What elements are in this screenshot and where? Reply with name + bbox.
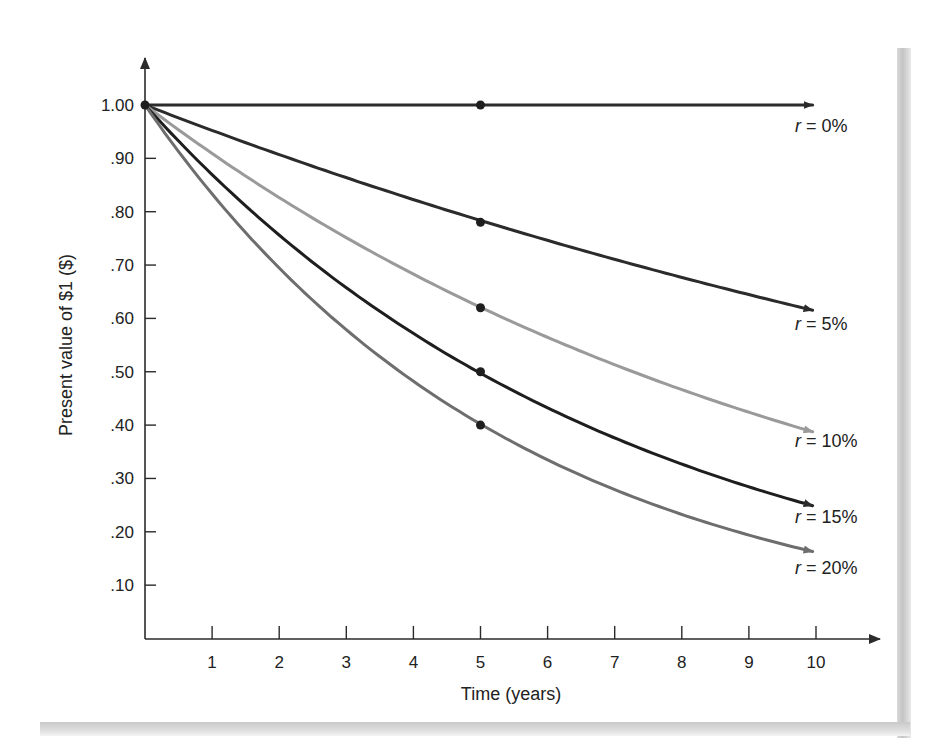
data-point-marker — [476, 367, 485, 376]
x-tick-label: 6 — [543, 653, 552, 672]
present-value-chart: 1.00.90.80.70.60.50.40.30.20.10 12345678… — [0, 0, 946, 751]
y-tick-label: .90 — [110, 149, 134, 168]
data-point-marker — [476, 303, 485, 312]
series-labels: r = 0%r = 5%r = 10%r = 15%r = 20% — [795, 116, 858, 578]
y-tick-label: .10 — [110, 576, 134, 595]
y-tick-label: .50 — [110, 363, 134, 382]
y-tick-label: .30 — [110, 469, 134, 488]
series-label: r = 10% — [795, 431, 858, 451]
data-point-marker — [476, 218, 485, 227]
series-line-20 — [145, 105, 813, 552]
x-axis-ticks: 12345678910 — [207, 626, 825, 672]
x-tick-label: 3 — [342, 653, 351, 672]
x-tick-label: 8 — [677, 653, 686, 672]
series-label: r = 20% — [795, 558, 858, 578]
y-tick-label: .20 — [110, 523, 134, 542]
x-tick-label: 1 — [207, 653, 216, 672]
x-tick-label: 5 — [476, 653, 485, 672]
y-axis-title: Present value of $1 ($) — [56, 254, 76, 436]
data-point-marker — [476, 101, 485, 110]
x-tick-label: 2 — [274, 653, 283, 672]
y-tick-label: .70 — [110, 256, 134, 275]
series-label: r = 0% — [795, 116, 848, 136]
data-point-marker — [141, 101, 150, 110]
x-tick-label: 10 — [807, 653, 826, 672]
y-tick-label: .60 — [110, 309, 134, 328]
y-tick-label: .80 — [110, 203, 134, 222]
y-tick-label: 1.00 — [101, 96, 134, 115]
x-tick-label: 9 — [744, 653, 753, 672]
x-tick-label: 7 — [610, 653, 619, 672]
data-markers — [141, 101, 486, 430]
series-label: r = 15% — [795, 507, 858, 527]
data-point-marker — [476, 421, 485, 430]
x-axis-title: Time (years) — [461, 684, 561, 704]
y-axis-ticks: 1.00.90.80.70.60.50.40.30.20.10 — [101, 96, 156, 595]
x-tick-label: 4 — [409, 653, 418, 672]
series-line-10 — [145, 105, 813, 432]
y-tick-label: .40 — [110, 416, 134, 435]
series-curves — [145, 105, 813, 552]
series-label: r = 5% — [795, 314, 848, 334]
series-line-5 — [145, 105, 813, 310]
